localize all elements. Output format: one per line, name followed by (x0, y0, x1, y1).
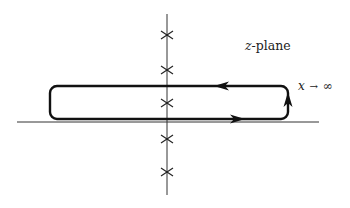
integration-contour (50, 86, 288, 119)
x-variable: x (298, 79, 305, 93)
arrow-right-symbol: → (310, 81, 318, 92)
limit-label: x → ∞ (298, 79, 333, 93)
infinity-symbol: ∞ (323, 79, 333, 93)
z-plane-diagram: z-plane x → ∞ (0, 0, 350, 208)
z-plane-label: z-plane (245, 38, 291, 53)
diagram-svg (0, 0, 350, 208)
plane-suffix: -plane (252, 38, 291, 53)
z-variable: z (245, 38, 252, 53)
